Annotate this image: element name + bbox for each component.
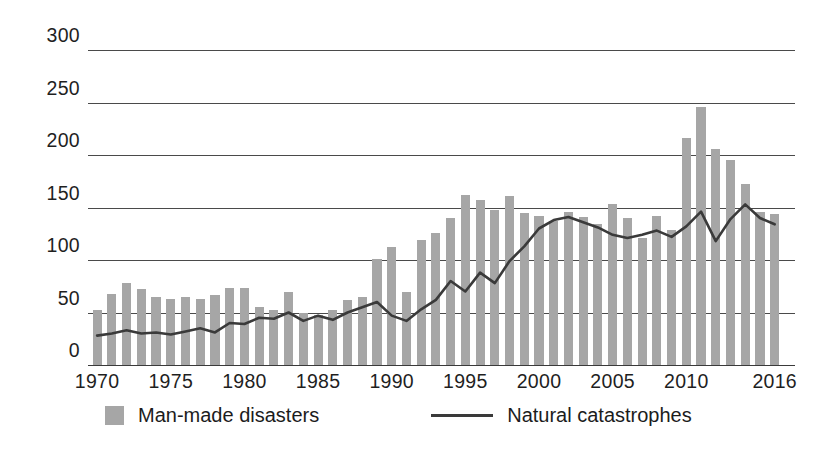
chart-container: 050100150200250300 197019751980198519901… (0, 0, 815, 455)
y-axis-tick-label-50: 50 (10, 289, 80, 309)
legend-label-man-made-disasters: Man-made disasters (138, 404, 319, 426)
y-axis-tick-label-150: 150 (10, 184, 80, 204)
x-axis-tick-label-1970: 1970 (75, 370, 120, 392)
x-axis-tick-label-1990: 1990 (369, 370, 414, 392)
legend-item-natural-catastrophes: Natural catastrophes (431, 404, 692, 426)
x-axis-tick-label-1995: 1995 (443, 370, 488, 392)
y-axis-tick-label-300: 300 (10, 26, 80, 46)
x-axis-tick-label-2010: 2010 (664, 370, 709, 392)
y-axis-tick-label-250: 250 (10, 79, 80, 99)
x-axis-tick-label-1985: 1985 (296, 370, 341, 392)
y-axis-tick-label-200: 200 (10, 131, 80, 151)
y-axis-tick-label-0: 0 (10, 341, 80, 361)
x-axis-tick-label-1980: 1980 (222, 370, 267, 392)
legend-label-natural-catastrophes: Natural catastrophes (507, 404, 692, 426)
legend-line-swatch-icon (431, 414, 493, 417)
x-axis-tick-label-2000: 2000 (517, 370, 562, 392)
legend-square-swatch-icon (105, 406, 124, 425)
legend-spacer (319, 415, 431, 416)
x-axis-tick-label-1975: 1975 (148, 370, 193, 392)
x-axis-tick-label-2016: 2016 (752, 370, 797, 392)
plot-area (88, 50, 795, 365)
y-axis-tick-label-100: 100 (10, 236, 80, 256)
axis-baseline (88, 365, 795, 366)
x-axis-tick-label-2005: 2005 (590, 370, 635, 392)
line-series-natural-catastrophes (88, 50, 795, 365)
legend-item-man-made-disasters: Man-made disasters (105, 404, 319, 426)
x-axis-tick-labels: 1970197519801985199019952000200520102016 (88, 370, 795, 396)
y-axis-tick-labels: 050100150200250300 (8, 50, 80, 365)
chart-legend: Man-made disasters Natural catastrophes (105, 404, 692, 426)
